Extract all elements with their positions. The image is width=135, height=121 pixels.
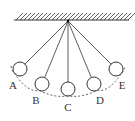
string-d [68,21,91,78]
ball-a [13,62,27,76]
pendulum-strings [25,21,111,82]
ceiling-support [14,13,135,20]
string-b [45,21,68,78]
ball-e [109,62,123,76]
ball-c [61,82,75,96]
pendulum-diagram: ABCDE [0,0,135,121]
pivot-point [67,20,70,23]
string-e [68,21,111,64]
label-d: D [96,94,104,106]
label-e: E [119,79,126,91]
string-a [25,21,68,64]
ball-b [35,77,49,91]
label-c: C [64,101,71,113]
ball-d [87,77,101,91]
label-a: A [9,79,17,91]
label-b: B [32,94,39,106]
